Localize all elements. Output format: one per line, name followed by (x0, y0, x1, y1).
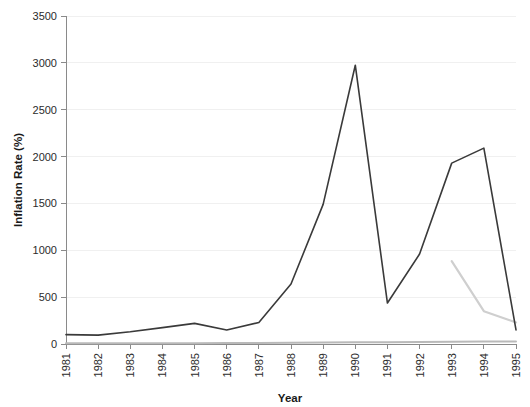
x-tick-label: 1987 (253, 353, 265, 377)
y-axis (61, 16, 66, 344)
x-axis-title: Year (278, 392, 303, 404)
x-tick-label: 1985 (189, 353, 201, 377)
series-line-light-gray-series (452, 261, 516, 322)
x-tick-label: 1986 (221, 353, 233, 377)
y-tick-label: 1500 (33, 197, 57, 209)
y-tick-label: 3000 (33, 57, 57, 69)
y-tick-label: 1000 (33, 244, 57, 256)
grid-lines (66, 16, 516, 344)
series-line-baseline-gray-series (66, 342, 516, 344)
y-tick-label: 2000 (33, 151, 57, 163)
x-tick-label: 1991 (381, 353, 393, 377)
y-tick-label: 500 (39, 291, 57, 303)
inflation-rate-chart: 0500100015002000250030003500 19811982198… (0, 0, 530, 407)
x-tick-label: 1992 (414, 353, 426, 377)
chart-svg: 0500100015002000250030003500 19811982198… (0, 0, 530, 407)
y-tick-label: 0 (51, 338, 57, 350)
series-line-primary-dark-series (66, 65, 516, 335)
y-tick-label: 3500 (33, 10, 57, 22)
x-tick-label: 1988 (285, 353, 297, 377)
x-tick-label: 1984 (156, 353, 168, 377)
x-tick-labels: 1981198219831984198519861987198819891990… (60, 353, 522, 377)
x-tick-label: 1994 (478, 353, 490, 377)
x-tick-label: 1989 (317, 353, 329, 377)
x-tick-label: 1993 (446, 353, 458, 377)
y-tick-labels: 0500100015002000250030003500 (33, 10, 57, 350)
x-tick-label: 1995 (510, 353, 522, 377)
x-tick-label: 1990 (349, 353, 361, 377)
x-tick-label: 1983 (124, 353, 136, 377)
x-tick-label: 1981 (60, 353, 72, 377)
x-axis (66, 344, 516, 349)
y-tick-label: 2500 (33, 104, 57, 116)
x-tick-label: 1982 (92, 353, 104, 377)
y-axis-title: Inflation Rate (%) (12, 133, 24, 227)
data-series-group (66, 65, 516, 343)
